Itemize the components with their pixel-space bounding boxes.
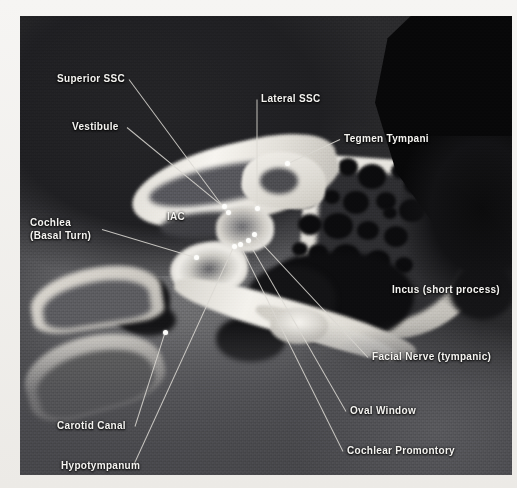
annotation-label-superior-ssc: Superior SSC [57, 72, 125, 85]
leader-endpoint-superior-ssc [226, 210, 231, 215]
leader-endpoint-facial-nerve-tympanic [252, 232, 257, 237]
leader-endpoint-cochlear-promontory [238, 242, 243, 247]
annotation-label-text-line2: (Basal Turn) [30, 229, 91, 242]
annotation-label-text: Lateral SSC [261, 92, 320, 105]
leader-endpoint-hypotympanum [232, 244, 237, 249]
annotation-label-hypotympanum: Hypotympanum [61, 459, 140, 472]
annotation-label-text: Facial Nerve (tympanic) [372, 350, 491, 363]
annotation-label-incus-short-process: Incus (short process) [392, 283, 500, 296]
leader-endpoint-vestibule [222, 204, 227, 209]
annotation-label-text: Cochlear Promontory [347, 444, 455, 457]
annotation-label-cochlea-basal-turn: Cochlea(Basal Turn) [30, 216, 91, 242]
annotation-label-tegmen-tympani: Tegmen Tympani [344, 132, 429, 145]
leader-endpoint-oval-window [246, 238, 251, 243]
annotation-label-text: Vestibule [72, 120, 119, 133]
annotation-label-text: Cochlea [30, 216, 91, 229]
leader-endpoint-carotid-canal [163, 330, 168, 335]
annotation-label-text: Carotid Canal [57, 419, 126, 432]
annotation-label-vestibule: Vestibule [72, 120, 119, 133]
annotation-label-text: Tegmen Tympani [344, 132, 429, 145]
leader-line-lateral-ssc [257, 99, 258, 209]
annotation-label-text: IAC [167, 210, 185, 223]
annotation-label-text: Oval Window [350, 404, 416, 417]
annotation-label-lateral-ssc: Lateral SSC [261, 92, 320, 105]
annotation-label-iac: IAC [167, 210, 185, 223]
annotation-label-cochlear-promontory: Cochlear Promontory [347, 444, 455, 457]
ct-scan-image: Superior SSCVestibuleLateral SSCTegmen T… [20, 16, 512, 475]
annotation-label-carotid-canal: Carotid Canal [57, 419, 126, 432]
screenshot-root: Superior SSCVestibuleLateral SSCTegmen T… [0, 0, 517, 488]
leader-endpoint-lateral-ssc [255, 206, 260, 211]
annotation-label-text: Incus (short process) [392, 283, 500, 296]
annotation-label-oval-window: Oval Window [350, 404, 416, 417]
leader-endpoint-tegmen-tympani [285, 161, 290, 166]
annotation-label-facial-nerve-tympanic: Facial Nerve (tympanic) [372, 350, 491, 363]
annotation-label-text: Hypotympanum [61, 459, 140, 472]
leader-endpoint-cochlea-basal-turn [194, 255, 199, 260]
annotation-label-text: Superior SSC [57, 72, 125, 85]
